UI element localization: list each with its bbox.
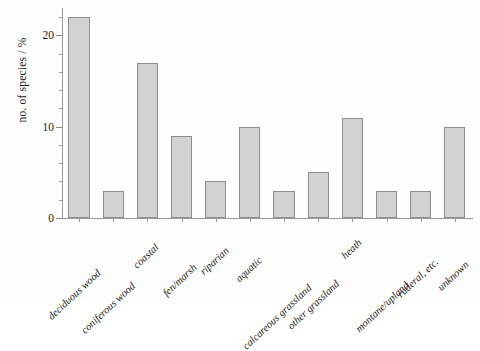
y-tick-major xyxy=(56,127,62,128)
bar xyxy=(205,181,226,218)
x-axis-labels: deciduous woodconiferous woodcoastalfen/… xyxy=(62,219,480,300)
y-tick-minor xyxy=(59,17,63,18)
bar xyxy=(444,127,465,218)
y-tick-minor xyxy=(59,163,63,164)
bar xyxy=(376,191,397,218)
y-tick-minor xyxy=(59,108,63,109)
x-axis-category-label: aquatic xyxy=(233,254,264,284)
y-tick-label: 10 xyxy=(43,121,55,133)
bar xyxy=(103,191,124,218)
y-tick-minor xyxy=(59,145,63,146)
y-tick-minor xyxy=(59,200,63,201)
bar xyxy=(137,63,158,218)
y-tick-minor xyxy=(59,72,63,73)
y-axis-label: no. of species / % xyxy=(16,25,28,135)
bar xyxy=(308,172,329,218)
x-axis-category-label: ruderal, etc. xyxy=(395,256,440,299)
y-tick-label: 0 xyxy=(48,212,54,224)
bar xyxy=(342,118,363,218)
x-axis-category-label: fen/marsh xyxy=(160,262,198,299)
x-axis-category-label: coastal xyxy=(131,242,161,271)
bar xyxy=(273,191,294,218)
x-axis-category-label: heath xyxy=(340,237,365,261)
x-axis-category-label: riparian xyxy=(198,245,231,277)
y-tick-major xyxy=(56,35,62,36)
bar xyxy=(68,17,89,218)
bar xyxy=(171,136,192,218)
y-tick-minor xyxy=(59,181,63,182)
y-tick-label: 20 xyxy=(43,29,55,41)
y-tick-minor xyxy=(59,54,63,55)
bar xyxy=(410,191,431,218)
y-tick-minor xyxy=(59,90,63,91)
bar xyxy=(239,127,260,218)
y-axis-line xyxy=(62,8,63,219)
plot-area: 01020 xyxy=(62,8,472,218)
